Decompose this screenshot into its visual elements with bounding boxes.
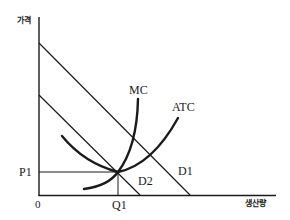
p1-label: P1	[19, 166, 32, 178]
origin-label: 0	[35, 199, 41, 210]
atc-label: ATC	[172, 101, 195, 113]
y-axis-label: 가격	[17, 17, 31, 25]
d2-label: D2	[138, 175, 153, 187]
mc-curve	[84, 99, 138, 189]
cost-demand-diagram: 가격 생산량 0 P1 Q1 MC ATC D1 D2	[0, 0, 290, 220]
q1-label: Q1	[112, 199, 127, 211]
x-axis-label: 생산량	[245, 200, 266, 208]
d2-line	[39, 95, 140, 195]
atc-curve	[62, 118, 178, 172]
d1-label: D1	[178, 165, 193, 177]
mc-label: MC	[129, 84, 148, 96]
